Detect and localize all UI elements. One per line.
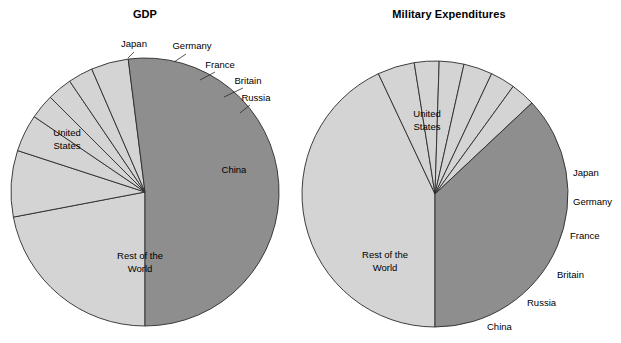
slice-label-united-states-1: United	[413, 108, 440, 119]
pie-slices-gdp	[11, 58, 279, 326]
pie-slices-military	[302, 61, 568, 327]
slice-label-rest-of-world-2: World	[373, 262, 398, 273]
slice-label-rest-of-world-1: Rest of the	[362, 249, 408, 260]
slice-label-france: France	[205, 59, 235, 70]
slice-label-germany: Germany	[573, 196, 612, 207]
slice-label-rest-of-world-1: Rest of the	[117, 250, 163, 261]
slice-label-britain: Britain	[235, 75, 262, 86]
slice-label-united-states-1: United	[53, 127, 80, 138]
slice-label-united-states-2: States	[414, 121, 441, 132]
slice-label-france: France	[570, 230, 600, 241]
slice-label-china: China	[222, 164, 248, 175]
slice-label-united-states-2: States	[54, 140, 81, 151]
pie-chart-figure: GDP JapanGermanyFranceBritainRussiaChina…	[0, 0, 621, 343]
slice-label-japan: Japan	[121, 38, 147, 49]
slice-label-russia: Russia	[241, 92, 271, 103]
slice-label-russia: Russia	[527, 297, 557, 308]
slice-label-germany: Germany	[172, 40, 211, 51]
chart-title-military: Military Expenditures	[392, 8, 505, 20]
slice-label-china: China	[487, 321, 513, 332]
slice-label-rest-of-world-2: World	[128, 263, 153, 274]
slice-label-britain: Britain	[557, 269, 584, 280]
slice-label-japan: Japan	[573, 167, 599, 178]
chart-title-gdp: GDP	[133, 8, 157, 20]
